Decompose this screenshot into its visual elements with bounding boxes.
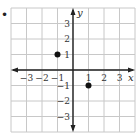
svg-text:3: 3 [64, 19, 70, 29]
data-point [86, 83, 92, 89]
svg-text:−2: −2 [57, 96, 70, 106]
svg-text:−2: −2 [35, 73, 48, 83]
x-axis-label: x [128, 72, 134, 83]
svg-text:−1: −1 [57, 81, 70, 91]
svg-text:−3: −3 [57, 112, 71, 122]
data-point [55, 52, 61, 58]
problem-marker: • [1, 8, 8, 22]
coordinate-plane: • −3−2−1123321−1−2−3 x y [0, 0, 137, 136]
svg-text:−3: −3 [20, 73, 34, 83]
svg-text:1: 1 [64, 50, 70, 60]
svg-text:2: 2 [101, 73, 107, 83]
y-axis-label: y [76, 7, 83, 18]
axes [11, 8, 135, 132]
svg-text:3: 3 [117, 73, 123, 83]
svg-text:2: 2 [64, 34, 70, 44]
svg-text:1: 1 [86, 73, 92, 83]
